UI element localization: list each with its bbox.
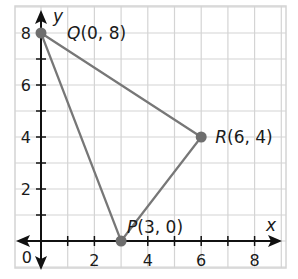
- labels: Q(0, 8)R(6, 4)P(3, 0): [67, 23, 273, 237]
- x-tick-label: 4: [143, 251, 153, 270]
- vertex-label-q: Q(0, 8): [67, 23, 126, 43]
- vertex-q: [36, 28, 47, 39]
- y-tick-label: 6: [21, 76, 31, 95]
- y-tick-label: 4: [21, 128, 31, 147]
- vertex-label-r: R(6, 4): [215, 127, 273, 147]
- y-tick-label: 2: [21, 180, 31, 199]
- vertex-p: [116, 236, 127, 247]
- coordinate-plane: 246824680xy Q(0, 8)R(6, 4)P(3, 0): [0, 0, 298, 279]
- y-axis-label: y: [52, 6, 64, 26]
- x-tick-label: 8: [250, 251, 260, 270]
- x-axis-label: x: [265, 215, 277, 235]
- x-tick-label: 2: [89, 251, 99, 270]
- x-tick-label: 6: [196, 251, 206, 270]
- origin-label: 0: [22, 248, 32, 267]
- vertex-label-p: P(3, 0): [127, 217, 183, 237]
- vertex-r: [196, 132, 207, 143]
- y-tick-label: 8: [21, 24, 31, 43]
